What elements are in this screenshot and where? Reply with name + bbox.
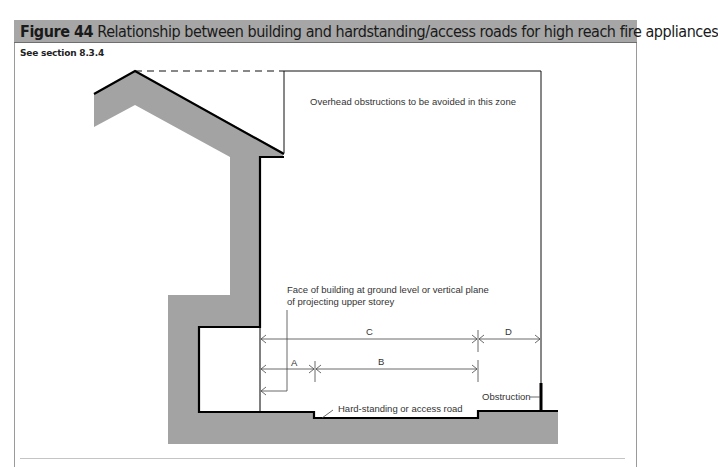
dimension-a-label: A [291, 357, 297, 368]
face-leader-line [261, 310, 287, 391]
hardstanding-leader [322, 410, 333, 418]
overhead-zone-outline [284, 71, 541, 384]
face-of-building-label-line1: Face of building at ground level or vert… [287, 284, 489, 295]
overhead-zone-label: Overhead obstructions to be avoided in t… [310, 96, 516, 107]
bottom-rule [20, 458, 625, 459]
obstruction-label: Obstruction [482, 391, 531, 402]
dimension-b-label: B [378, 356, 384, 367]
ground-floor-void [199, 327, 260, 412]
dimension-d-label: D [505, 326, 512, 337]
hardstanding-label: Hard-standing or access road [338, 403, 463, 414]
dimension-c-label: C [366, 326, 373, 337]
face-of-building-label-line2: of projecting upper storey [287, 296, 394, 307]
building-section-fill [94, 71, 558, 444]
